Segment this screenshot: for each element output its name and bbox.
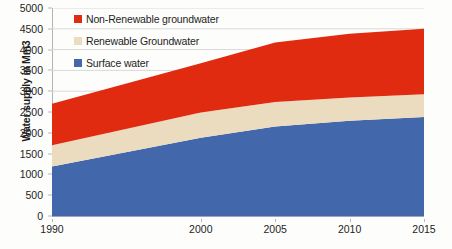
legend-item[interactable]: Surface water [74,54,304,72]
legend-label: Non-Renewable groundwater [86,13,219,25]
y-tick-label: 5000 [20,3,43,14]
x-tick-label: 2010 [338,223,361,235]
chart-screenshot: Water supply in Mm3 05001000150020002500… [0,0,452,249]
legend-swatch-icon [74,37,82,45]
y-tick-label: 500 [25,190,43,201]
x-tick-label: 1990 [40,223,63,235]
x-tick-mark [201,219,202,222]
y-tick-label: 2500 [20,107,43,118]
x-tick-mark [275,219,276,222]
legend-item[interactable]: Non-Renewable groundwater [74,10,304,28]
y-tick-label: 4000 [20,44,43,55]
x-axis-line [52,216,424,217]
x-tick-label: 2005 [264,223,287,235]
legend-swatch-icon [74,59,82,67]
legend-swatch-icon [74,15,82,23]
x-tick-mark [424,219,425,222]
chart-legend: Non-Renewable groundwaterRenewable Groun… [74,10,304,76]
x-axis-tick-labels: 19902000200520102015 [0,219,452,241]
y-tick-label: 3000 [20,86,43,97]
y-tick-label: 2000 [20,128,43,139]
legend-item[interactable]: Renewable Groundwater [74,32,304,50]
y-tick-label: 1000 [20,169,43,180]
y-axis-tick-labels: 0500100015002000250030003500400045005000 [0,0,48,249]
y-tick-label: 1500 [20,148,43,159]
x-tick-mark [350,219,351,222]
y-tick-label: 4500 [20,24,43,35]
y-tick-label: 3500 [20,65,43,76]
x-tick-mark [52,219,53,222]
legend-label: Renewable Groundwater [86,35,199,47]
x-tick-label: 2000 [189,223,212,235]
legend-label: Surface water [86,57,149,69]
x-tick-label: 2015 [412,223,435,235]
